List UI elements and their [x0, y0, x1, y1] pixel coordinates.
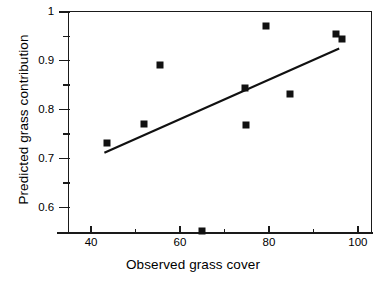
data-point-marker: [242, 121, 249, 128]
x-axis-tick-label: 40: [85, 236, 98, 248]
data-point-marker: [287, 91, 294, 98]
y-axis-title: Predicted grass contribution: [16, 5, 31, 235]
data-point-marker: [241, 84, 248, 91]
x-axis-tick-minor: [135, 229, 137, 234]
y-axis-tick-label: 0.9: [38, 55, 54, 67]
y-axis-tick-label: 1: [48, 6, 54, 18]
x-axis-tick-major: [90, 226, 92, 234]
data-point-marker: [156, 62, 163, 69]
x-axis-title: Observed grass cover: [0, 257, 386, 272]
x-axis-tick-major: [357, 226, 359, 234]
plot-data-area: [69, 12, 371, 233]
y-axis-tick-major: [59, 158, 70, 160]
x-axis-tick-major: [268, 226, 270, 234]
x-axis-tick-label: 80: [263, 236, 276, 248]
data-point-marker: [262, 23, 269, 30]
x-axis-line: [57, 232, 373, 234]
x-axis-tick-major: [179, 226, 181, 234]
y-axis-tick-major: [59, 109, 70, 111]
y-axis-tick-minor: [63, 36, 70, 38]
y-axis-tick-major: [59, 207, 70, 209]
y-axis-tick-major: [59, 60, 70, 62]
data-point-marker: [140, 121, 147, 128]
y-axis-tick-minor: [63, 133, 70, 135]
x-axis-tick-minor: [224, 229, 226, 234]
y-axis-tick-label: 0.8: [38, 104, 54, 116]
scatter-plot-figure: 0.60.70.80.91406080100 Observed grass co…: [0, 0, 386, 281]
data-point-marker: [199, 227, 206, 234]
plot-frame: [68, 11, 372, 233]
y-axis-tick-major: [59, 11, 70, 13]
y-axis-tick-label: 0.6: [38, 202, 54, 214]
y-axis-tick-label: 0.7: [38, 153, 54, 165]
y-axis-tick-minor: [63, 84, 70, 86]
x-axis-tick-minor: [313, 229, 315, 234]
x-axis-tick-label: 60: [174, 236, 187, 248]
x-axis-tick-label: 100: [348, 236, 367, 248]
data-point-marker: [103, 140, 110, 147]
y-axis-tick-minor: [63, 182, 70, 184]
data-point-marker: [338, 36, 345, 43]
